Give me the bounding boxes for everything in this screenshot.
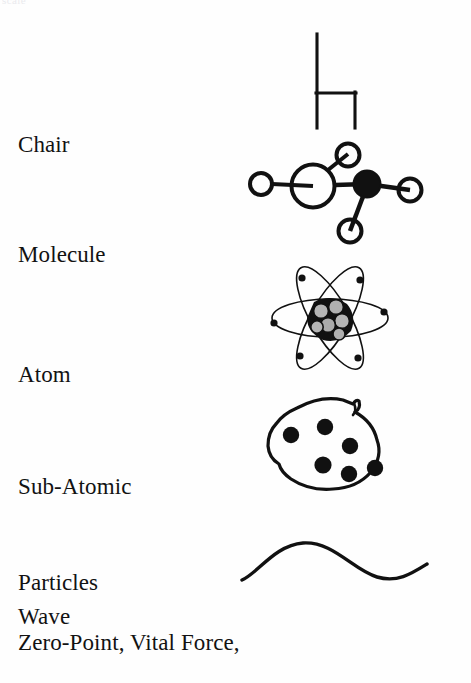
particle-cloud-icon — [225, 388, 445, 508]
page-canvas: scale Chair Molecule — [0, 0, 471, 683]
molecule-icon — [225, 140, 445, 255]
chair-icon — [225, 22, 445, 142]
label-line: Sub-Atomic — [18, 472, 131, 502]
wave-icon — [225, 512, 445, 602]
row-molecule: Molecule — [0, 140, 471, 255]
label-line: Atom — [18, 360, 71, 390]
row-chair: Chair — [0, 22, 471, 142]
row-wave: Wave — [0, 512, 471, 602]
caption-text: Zero-Point, Vital Force, — [18, 628, 240, 658]
row-atom: Atom — [0, 262, 471, 380]
row-label-wave: Wave — [18, 542, 70, 683]
atom-icon — [225, 262, 445, 380]
clipped-top-text: scale — [2, 0, 26, 6]
row-particles: Sub-Atomic Particles — [0, 388, 471, 508]
